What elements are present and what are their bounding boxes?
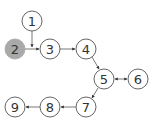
edge-4-5: [92, 57, 99, 69]
svg-text:1: 1: [28, 14, 36, 29]
svg-text:6: 6: [134, 72, 142, 87]
svg-text:2: 2: [11, 42, 19, 57]
svg-text:3: 3: [46, 42, 54, 57]
node-2: 2: [5, 39, 25, 59]
node-4: 4: [76, 39, 96, 59]
node-7: 7: [76, 97, 96, 117]
node-8: 8: [40, 97, 60, 117]
svg-text:8: 8: [46, 100, 54, 115]
node-9: 9: [5, 97, 25, 117]
svg-text:9: 9: [11, 100, 19, 115]
svg-text:4: 4: [82, 42, 90, 57]
node-3: 3: [40, 39, 60, 59]
edge-5-7: [92, 88, 98, 98]
graph-diagram: 1 2 3 4 5 6 7 8 9: [0, 0, 149, 130]
node-6: 6: [128, 69, 148, 89]
svg-text:5: 5: [100, 72, 108, 87]
node-5: 5: [94, 69, 114, 89]
svg-text:7: 7: [82, 100, 90, 115]
node-1: 1: [22, 11, 42, 31]
